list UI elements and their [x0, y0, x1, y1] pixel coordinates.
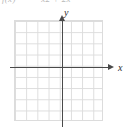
equation-right-fragment: x2 + 2x: [41, 0, 71, 4]
coordinate-grid-figure: f(x) = x2 + 2x x y: [0, 0, 130, 129]
arrow-right-icon: [108, 64, 114, 70]
y-axis-line: [62, 21, 63, 127]
x-axis-label: x: [118, 63, 122, 73]
y-axis-label: y: [64, 8, 68, 18]
grid-plate: [14, 20, 103, 121]
clipped-equation-text: f(x) = x2 + 2x: [0, 0, 130, 5]
equation-left-fragment: f(x) =: [2, 0, 25, 4]
x-axis-line: [10, 67, 109, 68]
